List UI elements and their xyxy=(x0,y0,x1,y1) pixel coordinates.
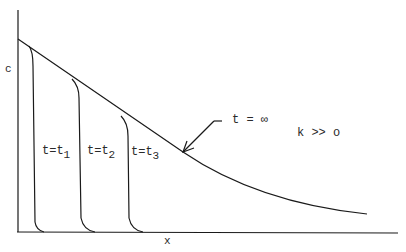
label-t-infinity: t = ∞ xyxy=(232,114,268,126)
label-t3: t=t3 xyxy=(131,146,159,162)
curve-t1 xyxy=(29,46,44,232)
label-t2: t=t2 xyxy=(87,145,115,161)
x-axis xyxy=(17,232,398,233)
label-t1: t=t1 xyxy=(42,145,70,161)
pointer-line xyxy=(183,121,214,152)
annotation-k: k >> o xyxy=(297,127,340,139)
diagram-canvas xyxy=(0,0,406,252)
curve-t3 xyxy=(121,116,143,232)
x-axis-label: x xyxy=(164,236,171,247)
y-axis-label: c xyxy=(5,64,12,75)
